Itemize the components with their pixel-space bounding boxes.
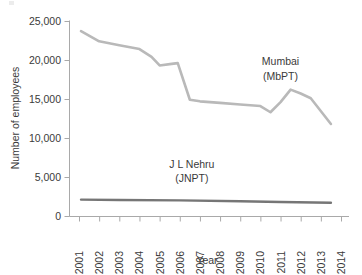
y-axis: 05,00010,00015,00020,00025,000 Number of…: [9, 15, 70, 222]
y-tick-label: 10,000: [29, 132, 61, 144]
y-tick-label: 20,000: [29, 54, 61, 66]
y-tick-label: 25,000: [29, 15, 61, 27]
series-annotation: J L Nehru: [169, 158, 214, 170]
x-tick-label: 2013: [315, 251, 327, 275]
x-tick-label: 2001: [73, 251, 85, 275]
employment-line-chart: 05,00010,00015,00020,00025,000 Number of…: [0, 0, 362, 275]
x-tick-label: 2010: [254, 251, 266, 275]
x-tick-label: 2009: [234, 251, 246, 275]
scan-artifact: [9, 1, 14, 5]
x-tick-label: 2006: [174, 251, 186, 275]
series-annotation: (JNPT): [175, 172, 208, 184]
series-line-jnpt: [81, 200, 331, 203]
x-axis: 2001200220032004200520062007200820092010…: [70, 217, 350, 275]
series-annotation: Mumbai: [262, 55, 299, 67]
series-annotations: Mumbai(MbPT)J L Nehru(JNPT): [169, 55, 299, 184]
x-tick-label: 2003: [113, 251, 125, 275]
x-tick-label: 2012: [295, 251, 307, 275]
series-annotation: (MbPT): [263, 70, 298, 82]
x-tick-label: 2002: [93, 251, 105, 275]
y-tick-label: 0: [55, 210, 61, 222]
y-axis-ticks: 05,00010,00015,00020,00025,000: [29, 15, 70, 222]
x-tick-label: 2004: [133, 251, 145, 275]
y-tick-label: 15,000: [29, 93, 61, 105]
x-tick-label: 2011: [275, 251, 287, 274]
chart-svg: 05,00010,00015,00020,00025,000 Number of…: [0, 0, 362, 275]
y-tick-label: 5,000: [35, 171, 61, 183]
y-axis-title: Number of employees: [9, 67, 21, 170]
x-tick-label: 2005: [154, 251, 166, 275]
x-tick-label: 2014: [335, 251, 347, 275]
x-axis-title: Year: [196, 254, 218, 266]
